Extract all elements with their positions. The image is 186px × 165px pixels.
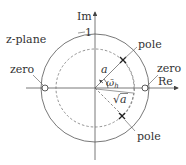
omega-symbol: ω̄: [106, 77, 114, 88]
real-axis-label: Re: [158, 75, 173, 88]
radius-a-label: a: [101, 63, 108, 76]
leader-plane-label: [78, 32, 85, 33]
zero-marker-left: [42, 85, 48, 91]
zero-label-left: zero: [10, 63, 35, 76]
plane-title: z-plane: [6, 33, 46, 46]
imag-axis-label: Im: [77, 10, 92, 23]
z-plane-diagram: Im Re z-plane 1 zero zero pole pole a ω̄…: [0, 0, 186, 165]
pole-label-top: pole: [138, 38, 162, 51]
pole-marker-bottom: [119, 113, 125, 119]
omega-subscript: h: [114, 82, 119, 90]
pole-label-bottom: pole: [137, 130, 161, 143]
zero-label-right: zero: [157, 62, 182, 75]
unit-circle-label: 1: [85, 26, 92, 39]
sqrt-arg: a: [120, 93, 127, 106]
